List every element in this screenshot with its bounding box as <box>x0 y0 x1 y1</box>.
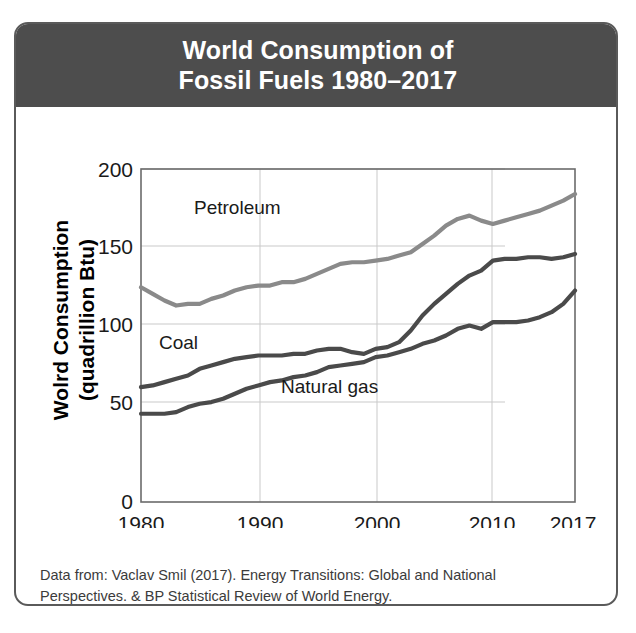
y-tick-50: 50 <box>110 391 133 414</box>
x-tick-2010: 2010 <box>469 512 516 528</box>
line-chart: 0 50 100 150 200 1980 1990 2000 2010 201… <box>16 108 618 528</box>
y-tick-100: 100 <box>98 313 133 336</box>
chart-title-line-1: World Consumption of <box>183 35 454 65</box>
series-label-natural-gas-2: Natural gas <box>281 376 378 397</box>
figure-container: World Consumption of Fossil Fuels 1980–2… <box>14 22 618 606</box>
caption-line-1: Data from: Vaclav Smil (2017). Energy Tr… <box>40 565 596 586</box>
chart-title-banner: World Consumption of Fossil Fuels 1980–2… <box>15 23 618 107</box>
source-caption: Data from: Vaclav Smil (2017). Energy Tr… <box>40 565 596 606</box>
y-tick-0: 0 <box>121 490 133 513</box>
x-tick-1980: 1980 <box>118 512 165 528</box>
chart-title-line-2: Fossil Fuels 1980–2017 <box>179 65 458 95</box>
y-tick-200: 200 <box>98 158 133 181</box>
caption-line-2: Perspectives. & BP Statistical Review of… <box>40 586 596 606</box>
y-axis-tick-labels: 0 50 100 150 200 <box>98 158 133 513</box>
x-axis-tick-labels: 1980 1990 2000 2010 2017 <box>118 512 597 528</box>
series-label-coal: Coal <box>159 332 198 353</box>
x-tick-1990: 1990 <box>237 512 284 528</box>
y-tick-150: 150 <box>98 235 133 258</box>
x-tick-2017: 2017 <box>550 512 597 528</box>
x-tick-2000: 2000 <box>354 512 401 528</box>
plot-area: Wolrd Consumption (quadrillion Btu) 0 50… <box>16 108 618 528</box>
series-label-petroleum: Petroleum <box>194 197 281 218</box>
inline-series-labels: Petroleum Coal Natural gas Natural gas <box>156 197 378 400</box>
